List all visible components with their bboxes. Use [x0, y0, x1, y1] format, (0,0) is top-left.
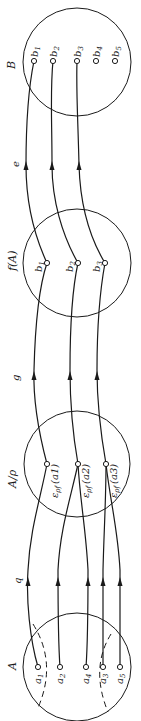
- node-a1: [35, 664, 40, 669]
- edge-q-a3: [103, 464, 106, 667]
- node-a5: [117, 664, 122, 669]
- label-set-fA: f(A): [6, 250, 19, 272]
- label-class-a2: ερf(a2): [80, 464, 93, 498]
- label-map-q: q: [12, 578, 23, 584]
- node-B-b1: [31, 58, 36, 63]
- edge-e-3: [77, 61, 105, 263]
- label-map-e: e: [10, 161, 21, 167]
- label-B-b2: b2: [48, 46, 61, 57]
- label-B-b5: b5: [110, 46, 123, 57]
- label-B-b3: b3: [72, 46, 85, 57]
- arrow-g-3: [95, 371, 100, 380]
- arrow-e-1: [24, 161, 29, 170]
- labels-fA-elements: b1 b2 b3: [33, 261, 104, 272]
- label-class-a1: ερf(a1): [49, 464, 62, 498]
- arrow-e-3: [77, 161, 82, 170]
- edge-g-3: [97, 263, 106, 464]
- node-a4: [83, 664, 88, 669]
- label-set-B: B: [5, 61, 18, 70]
- label-a2: a2: [54, 673, 67, 684]
- label-a1: a1: [32, 674, 45, 684]
- node-B-b4: [93, 58, 98, 63]
- node-a2: [57, 664, 62, 669]
- labels-quotient-elements: ερf(a1) ερf(a2) ερf(a3): [49, 464, 121, 498]
- arrow-g-1: [32, 371, 37, 380]
- arrow-q-1: [26, 577, 31, 586]
- arrow-e-2: [50, 161, 55, 170]
- node-B-b2: [50, 58, 55, 63]
- label-set-A: A: [6, 662, 19, 671]
- nodes-B: [31, 58, 117, 63]
- edge-g-1: [34, 263, 47, 464]
- label-B-b1: b1: [29, 46, 42, 57]
- arrow-g-2: [68, 371, 73, 380]
- factorization-diagram: A q A/ρ g f(A) e B a1 a2 a4 a3 a5 ερf(a1…: [0, 0, 141, 721]
- edge-g-2: [70, 263, 78, 464]
- label-fA-b3: b3: [91, 261, 104, 272]
- edge-q-a2: [58, 464, 78, 667]
- label-fA-b1: b1: [33, 261, 46, 272]
- label-fA-b2: b2: [64, 261, 77, 272]
- edge-e-1: [26, 61, 47, 263]
- edge-e-2: [51, 61, 78, 263]
- label-map-g: g: [10, 375, 21, 381]
- edge-q-a1: [27, 464, 47, 667]
- partition-boundary-right: [100, 634, 111, 712]
- label-class-a3: ερf(a3): [108, 464, 121, 498]
- labels-B-elements: b1 b2 b3 b4 b5: [29, 46, 123, 57]
- label-a4: a4: [80, 674, 93, 684]
- node-a3: [100, 664, 105, 669]
- arrow-q-5: [118, 577, 123, 586]
- arrow-q-2: [56, 577, 61, 586]
- label-B-b4: b4: [91, 46, 104, 57]
- arrow-q-3: [86, 577, 91, 586]
- label-set-quotient: A/ρ: [6, 469, 19, 489]
- label-a3: a3: [97, 673, 110, 684]
- node-B-b3: [74, 58, 79, 63]
- label-a5: a5: [114, 673, 127, 684]
- node-B-b5: [112, 58, 117, 63]
- arrow-q-4: [101, 577, 106, 586]
- nodes-A: [35, 664, 122, 669]
